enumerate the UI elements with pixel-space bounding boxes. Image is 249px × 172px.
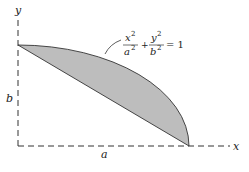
- svg-text:y: y: [150, 32, 157, 43]
- shaded-region: [18, 45, 189, 146]
- dimension-b-label: b: [6, 92, 13, 105]
- ellipse-equation: x 2 a 2 + y 2 b 2 = 1: [123, 30, 184, 57]
- ellipse-segment-diagram: y x b a x 2 a 2 + y 2 b 2 = 1: [0, 0, 249, 172]
- svg-text:2: 2: [157, 30, 161, 38]
- dimension-a-label: a: [101, 148, 108, 161]
- x-axis-label: x: [233, 140, 240, 153]
- leader-line: [105, 40, 121, 54]
- svg-text:2: 2: [131, 30, 135, 38]
- svg-text:2: 2: [157, 44, 161, 52]
- svg-text:b: b: [150, 46, 156, 57]
- svg-text:= 1: = 1: [166, 39, 184, 50]
- y-axis-label: y: [14, 4, 22, 17]
- svg-text:2: 2: [131, 44, 135, 52]
- svg-text:+: +: [141, 40, 149, 50]
- svg-text:a: a: [124, 46, 130, 57]
